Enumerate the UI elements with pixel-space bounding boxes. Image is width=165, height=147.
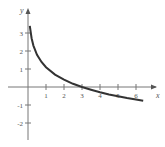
y-tick-label: -2 [17,120,23,128]
series-line [30,26,143,101]
x-tick-label: 2 [62,92,66,100]
y-axis-label: y [19,6,24,15]
x-axis-label: x [155,91,160,100]
y-tick-label: 3 [20,30,24,38]
x-tick-label: 1 [44,92,48,100]
ticks: 123456-2-1123 [17,30,138,128]
y-tick-label: 1 [20,66,24,74]
chart: 123456-2-1123 x y [0,0,165,147]
y-tick-label: -1 [17,102,23,110]
y-tick-label: 2 [20,48,24,56]
x-tick-label: 3 [80,92,84,100]
